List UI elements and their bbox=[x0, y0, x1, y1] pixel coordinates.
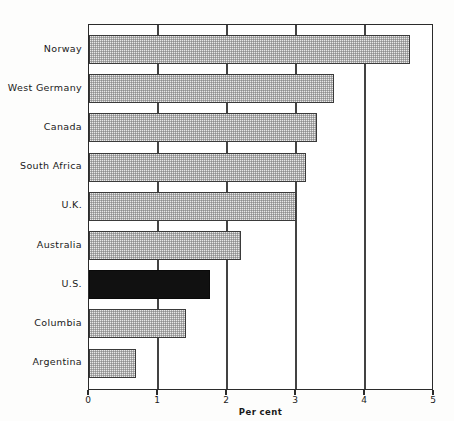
x-tick-label-2: 2 bbox=[216, 395, 236, 405]
x-tick-label-0: 0 bbox=[78, 395, 98, 405]
category-label-argentina: Argentina bbox=[0, 357, 82, 367]
category-label-west-germany: West Germany bbox=[0, 83, 82, 93]
bar-u-s bbox=[89, 270, 210, 299]
bar-canada bbox=[89, 113, 317, 142]
category-label-canada: Canada bbox=[0, 122, 82, 132]
bar-argentina bbox=[89, 349, 136, 378]
category-label-u-k: U.K. bbox=[0, 200, 82, 210]
bar-columbia bbox=[89, 309, 186, 338]
category-label-columbia: Columbia bbox=[0, 318, 82, 328]
category-label-australia: Australia bbox=[0, 240, 82, 250]
category-label-south-africa: South Africa bbox=[0, 161, 82, 171]
x-tick-label-1: 1 bbox=[147, 395, 167, 405]
category-label-norway: Norway bbox=[0, 44, 82, 54]
category-axis-labels: NorwayWest GermanyCanadaSouth AfricaU.K.… bbox=[0, 24, 82, 390]
x-tick-label-4: 4 bbox=[354, 395, 374, 405]
plot-area bbox=[88, 24, 433, 390]
bar-australia bbox=[89, 231, 241, 260]
bar-norway bbox=[89, 35, 410, 64]
bar-u-k bbox=[89, 192, 296, 221]
bar-chart-figure: NorwayWest GermanyCanadaSouth AfricaU.K.… bbox=[0, 0, 454, 421]
x-tick-label-3: 3 bbox=[285, 395, 305, 405]
x-axis-title: Per cent bbox=[88, 407, 433, 417]
x-axis: Per cent 012345 bbox=[88, 390, 433, 421]
bar-series bbox=[89, 25, 432, 389]
category-label-u-s: U.S. bbox=[0, 279, 82, 289]
bar-west-germany bbox=[89, 74, 334, 103]
bar-south-africa bbox=[89, 153, 306, 182]
x-tick-label-5: 5 bbox=[423, 395, 443, 405]
